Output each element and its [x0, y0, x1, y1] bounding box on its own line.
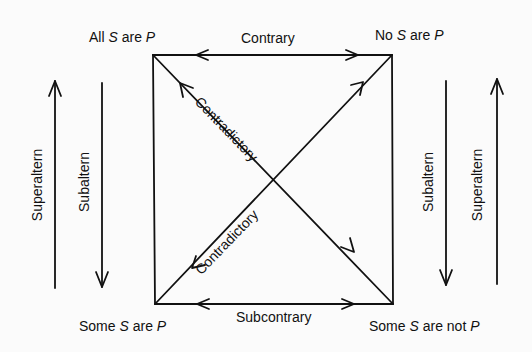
label-some-s-are-p: Some S are P — [79, 318, 166, 334]
text: are — [118, 29, 146, 45]
label-subaltern-right: Subaltern — [420, 152, 436, 212]
text: No — [375, 27, 397, 43]
label-superaltern-left: Superaltern — [29, 149, 45, 221]
var-s: S — [108, 29, 117, 45]
var-p: P — [470, 318, 479, 334]
label-all-s-are-p: All S are P — [89, 29, 155, 45]
var-p: P — [157, 318, 166, 334]
label-subaltern-left: Subaltern — [76, 152, 92, 212]
var-s: S — [397, 27, 406, 43]
label-superaltern-right: Superaltern — [469, 149, 485, 221]
text: All — [89, 29, 108, 45]
var-s: S — [119, 318, 128, 334]
label-some-s-are-not-p: Some S are not P — [369, 318, 480, 334]
text: are — [406, 27, 434, 43]
var-p: P — [434, 27, 443, 43]
right-edge — [392, 55, 393, 304]
text: are not — [419, 318, 470, 334]
var-s: S — [409, 318, 418, 334]
left-edge — [153, 55, 155, 304]
arrow-contradictory-br-icon — [341, 238, 354, 252]
text: Some — [79, 318, 119, 334]
var-p: P — [146, 29, 155, 45]
text: Some — [369, 318, 409, 334]
label-no-s-are-p: No S are P — [375, 27, 444, 43]
text: are — [129, 318, 157, 334]
label-subcontrary: Subcontrary — [236, 309, 311, 325]
label-contrary: Contrary — [241, 30, 295, 46]
